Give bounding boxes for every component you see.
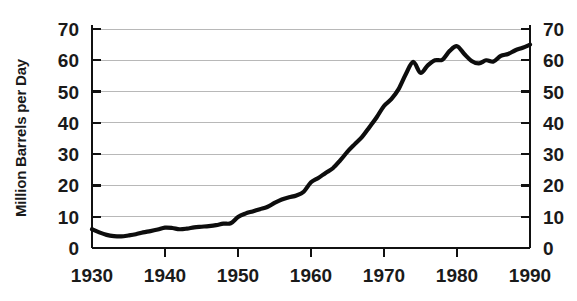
x-axis-tick-label-1950: 1950 — [217, 265, 259, 286]
y-axis-tick-label-right-70: 70 — [543, 19, 564, 40]
x-axis-tick-label-1970: 1970 — [363, 265, 405, 286]
y-axis-tick-label-left-60: 60 — [58, 50, 79, 71]
y-axis-title: Million Barrels per Day — [12, 58, 29, 217]
y-axis-tick-label-right-30: 30 — [543, 144, 564, 165]
x-axis-tick-label-1940: 1940 — [144, 265, 186, 286]
x-axis-tick-label-1980: 1980 — [436, 265, 478, 286]
y-axis-tick-label-left-70: 70 — [58, 19, 79, 40]
line-chart: 010203040506070 010203040506070 19301940… — [0, 0, 577, 301]
y-axis-tick-label-left-20: 20 — [58, 175, 79, 196]
y-axis-tick-label-right-50: 50 — [543, 82, 564, 103]
x-axis-tick-label-1990: 1990 — [509, 265, 551, 286]
y-axis-tick-label-left-50: 50 — [58, 82, 79, 103]
y-axis-tick-label-left-0: 0 — [68, 238, 79, 259]
y-axis-tick-label-right-40: 40 — [543, 113, 564, 134]
y-axis-tick-label-left-30: 30 — [58, 144, 79, 165]
chart-container: 010203040506070 010203040506070 19301940… — [0, 0, 577, 301]
y-axis-tick-label-left-10: 10 — [58, 207, 79, 228]
y-axis-tick-label-right-10: 10 — [543, 207, 564, 228]
x-axis-tick-label-1930: 1930 — [71, 265, 113, 286]
chart-background — [0, 0, 577, 301]
x-axis-tick-label-1960: 1960 — [290, 265, 332, 286]
y-axis-tick-label-left-40: 40 — [58, 113, 79, 134]
y-axis-tick-label-right-60: 60 — [543, 50, 564, 71]
y-axis-tick-label-right-20: 20 — [543, 175, 564, 196]
y-axis-tick-label-right-0: 0 — [543, 238, 554, 259]
